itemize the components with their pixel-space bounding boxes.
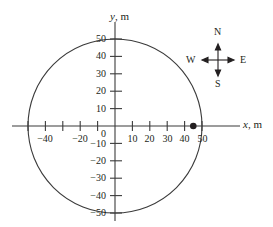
- y-tick-label-minus-20: −20: [73, 155, 106, 166]
- y-tick-label-30: 30: [76, 68, 106, 79]
- x-tick-label-minus-40: −40: [30, 133, 60, 144]
- y-tick-label-50: 50: [76, 33, 106, 44]
- plot-canvas: [0, 0, 273, 227]
- compass-label-south: S: [215, 78, 221, 89]
- y-tick-label-minus-40: −40: [73, 190, 106, 201]
- y-tick-label-minus-30: −30: [73, 172, 106, 183]
- physics-figure: y, m x, m 50 40 30 20 10 0 −10 −20 −30 −…: [0, 0, 273, 227]
- y-tick-label-20: 20: [76, 85, 106, 96]
- y-axis-label: y, m: [110, 10, 129, 22]
- compass-label-west: W: [186, 54, 195, 65]
- compass-north-arrowhead: [215, 44, 220, 50]
- x-tick-label-20: 20: [140, 133, 159, 144]
- y-tick-label-40: 40: [76, 50, 106, 61]
- x-axis-label: x, m: [243, 118, 262, 130]
- marked-point: [190, 123, 197, 130]
- compass-east-arrowhead: [228, 57, 234, 62]
- x-tick-label-50: 50: [193, 133, 212, 144]
- x-axis-label-unit: , m: [248, 118, 262, 130]
- compass-label-north: N: [214, 26, 221, 37]
- compass-rose: [202, 44, 234, 76]
- x-tick-label-40: 40: [175, 133, 194, 144]
- y-axis-label-unit: , m: [115, 10, 129, 22]
- x-tick-label-minus-20: −20: [65, 133, 95, 144]
- y-tick-label-minus-50: −50: [73, 207, 106, 218]
- y-tick-label-10: 10: [76, 103, 106, 114]
- compass-west-arrowhead: [202, 57, 208, 62]
- compass-label-east: E: [240, 54, 246, 65]
- compass-south-arrowhead: [215, 70, 220, 76]
